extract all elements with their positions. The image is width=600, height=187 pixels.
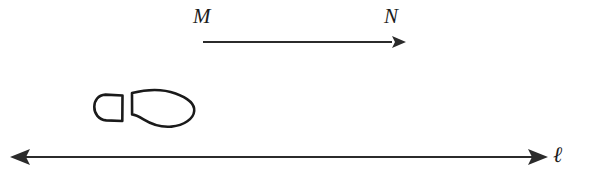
vector-end-label-N: N [384, 6, 398, 27]
translation-vector-MN [203, 36, 406, 48]
footprint-heel [94, 95, 122, 121]
footprint-sole [132, 90, 194, 126]
footprint-outline [94, 90, 194, 126]
line-ell [10, 149, 548, 165]
vector-start-label-M: M [193, 6, 211, 27]
line-label-ell: ℓ [553, 144, 562, 166]
figure-drawing-layer [0, 0, 600, 187]
figure-canvas: M N ℓ [0, 0, 600, 187]
vector-MN-arrowhead-right [392, 36, 406, 48]
